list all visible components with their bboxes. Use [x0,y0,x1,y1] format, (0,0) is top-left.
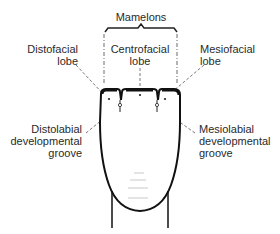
mesiolabial-groove-label: Mesiolabial developmental groove [199,123,279,159]
mesiolabial-groove-marker [155,103,158,106]
distolabial-groove-marker [118,103,121,106]
centrofacial-lobe-dot [139,94,141,96]
mesiofacial-lobe-dot [164,98,166,100]
mesiofacial-lobe-label: Mesiofacial lobe [200,43,270,67]
tooth-diagram [0,0,280,234]
centrofacial-lobe-label: Centrofacial lobe [106,43,174,67]
distofacial-lobe-dot [108,98,110,100]
distofacial-lobe-label: Distofacial lobe [10,43,78,67]
mamelons-label: Mamelons [110,11,172,23]
mamelons-bracket [105,24,177,32]
distolabial-groove-label: Distolabial developmental groove [8,123,82,159]
